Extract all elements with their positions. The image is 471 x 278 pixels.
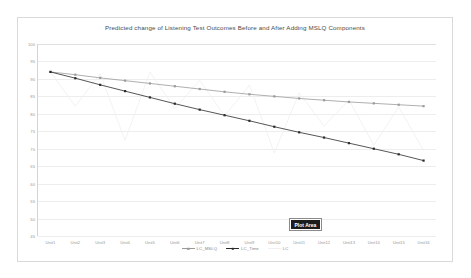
x-tick-label: Unit12 [318,240,330,245]
data-point-marker [248,120,250,122]
data-point-marker [273,95,275,97]
plot-area[interactable]: 1009590858075706560555045 Unit1Unit2Unit… [38,27,436,236]
data-point-marker [149,96,151,98]
series-line-lc [50,72,423,153]
data-point-marker [49,71,51,73]
y-tick-label: 55 [30,199,35,204]
legend-label: LC_MSLQ [197,246,218,251]
data-point-marker [174,85,176,87]
x-tick-label: Unit13 [343,240,355,245]
data-point-marker [298,131,300,133]
x-tick-label: Unit2 [70,240,80,245]
chart-card[interactable]: Predicted change of Listening Test Outco… [17,17,453,262]
y-tick-label: 90 [30,76,35,81]
x-tick-label: Unit4 [120,240,130,245]
data-point-marker [99,77,101,79]
gridline [38,236,436,237]
legend-item-lc[interactable]: LC [268,246,289,251]
series-layer [38,27,436,236]
x-tick-label: Unit3 [95,240,105,245]
legend-item-lc_time[interactable]: LC_Time [226,246,259,251]
data-point-marker [99,84,101,86]
data-point-marker [373,148,375,150]
data-point-marker [74,77,76,79]
data-point-marker [124,90,126,92]
y-tick-label: 60 [30,181,35,186]
x-tick-label: Unit1 [46,240,56,245]
y-tick-label: 70 [30,146,35,151]
legend-swatch-icon [268,246,281,251]
data-point-marker [373,102,375,104]
data-point-marker [223,91,225,93]
y-tick-label: 75 [30,129,35,134]
series-line-lc_time [50,72,423,161]
y-tick-label: 50 [30,216,35,221]
data-point-marker [422,159,424,161]
legend-label: LC_Time [241,246,259,251]
legend-item-lc_mslq[interactable]: LC_MSLQ [182,246,218,251]
x-tick-label: Unit6 [170,240,180,245]
x-tick-label: Unit10 [268,240,280,245]
legend-swatch-icon [226,246,239,251]
y-tick-label: 65 [30,164,35,169]
data-point-marker [248,93,250,95]
data-point-marker [323,99,325,101]
x-tick-label: Unit5 [145,240,155,245]
data-point-marker [199,88,201,90]
data-point-marker [149,82,151,84]
chart-legend[interactable]: LC_MSLQLC_TimeLC [18,246,452,251]
x-tick-label: Unit16 [418,240,430,245]
x-tick-label: Unit15 [393,240,405,245]
data-point-marker [124,80,126,82]
x-tick-label: Unit9 [245,240,255,245]
data-point-marker [422,105,424,107]
plot-area-tooltip: Plot Area [290,219,321,230]
y-tick-label: 100 [28,42,35,47]
data-point-marker [273,126,275,128]
data-point-marker [74,74,76,76]
data-point-marker [323,136,325,138]
data-point-marker [348,142,350,144]
data-point-marker [199,109,201,111]
y-tick-label: 85 [30,94,35,99]
data-point-marker [348,101,350,103]
legend-label: LC [283,246,289,251]
data-point-marker [174,103,176,105]
x-tick-label: Unit14 [368,240,380,245]
data-point-marker [298,97,300,99]
x-tick-label: Unit7 [195,240,205,245]
data-point-marker [223,114,225,116]
legend-swatch-icon [182,246,195,251]
x-tick-label: Unit11 [293,240,305,245]
y-tick-label: 95 [30,59,35,64]
x-tick-label: Unit8 [220,240,230,245]
y-tick-label: 80 [30,111,35,116]
data-point-marker [398,153,400,155]
y-tick-label: 45 [30,234,35,239]
data-point-marker [398,104,400,106]
